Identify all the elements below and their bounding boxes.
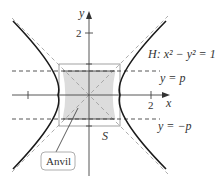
square-s-label: S: [102, 129, 108, 143]
diagram-canvas: y 2 x 2 H: x² − y² = 1 y = p y = −p S An…: [0, 0, 215, 181]
y-axis-arrow-icon: [86, 11, 92, 19]
x-tick-label: 2: [148, 99, 154, 111]
x-axis-label: x: [165, 96, 172, 110]
anvil-label: Anvil: [46, 155, 71, 167]
line-y-eq-neg-p-label: y = −p: [157, 119, 192, 133]
hyperbola-anvil-diagram: y 2 x 2 H: x² − y² = 1 y = p y = −p S An…: [0, 0, 215, 181]
y-axis-label: y: [78, 6, 85, 20]
y-tick-label: 2: [76, 27, 82, 39]
line-y-eq-p-label: y = p: [159, 71, 185, 85]
hyperbola-equation-label: H: x² − y² = 1: [147, 47, 215, 61]
